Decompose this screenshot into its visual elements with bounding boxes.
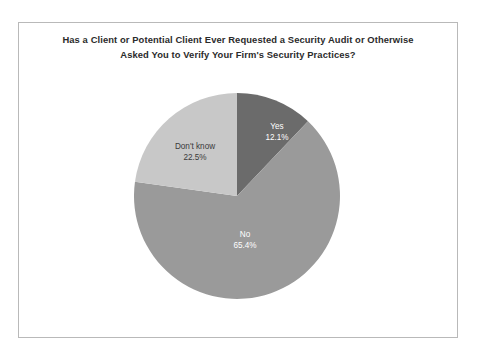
chart-frame: Has a Client or Potential Client Ever Re…	[18, 22, 458, 338]
pie-chart-area: Yes 12.1% No 65.4% Don't know 22.5%	[19, 23, 457, 337]
pie-slice-dont-know[interactable]	[135, 93, 237, 196]
pie-chart-graphic	[134, 93, 340, 299]
